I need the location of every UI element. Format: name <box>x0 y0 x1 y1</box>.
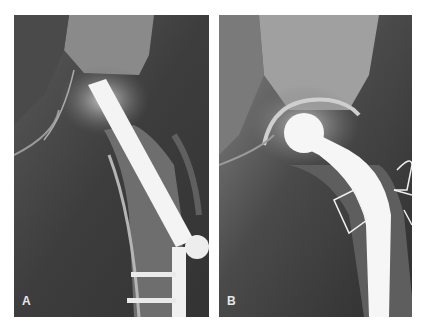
xray-image-b <box>219 15 412 317</box>
xray-panel-a: A <box>14 15 209 317</box>
xray-panel-b: B <box>219 15 412 317</box>
panel-label-b: B <box>227 294 236 308</box>
xray-image-a <box>14 15 209 317</box>
panel-label-a: A <box>22 294 31 308</box>
